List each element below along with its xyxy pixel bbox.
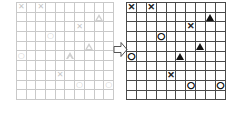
- grid-cell: [17, 81, 27, 91]
- grid-cell: [147, 52, 157, 62]
- source-grid: ✕✕✕○○✕○○: [16, 2, 114, 100]
- grid-cell: [95, 42, 105, 52]
- grid-cell: ○: [216, 81, 226, 91]
- grid-cell: [206, 91, 216, 100]
- circle-symbol: ○: [157, 32, 165, 41]
- circle-symbol: ○: [76, 81, 83, 89]
- grid-cell: [157, 71, 167, 81]
- grid-cell: [147, 22, 157, 32]
- circle-symbol: ○: [187, 81, 195, 90]
- grid-cell: [196, 32, 206, 42]
- cross-symbol: ✕: [128, 3, 136, 12]
- grid-cell: [56, 13, 66, 23]
- grid-cell: [127, 13, 137, 22]
- grid-cell: [27, 90, 37, 100]
- grid-cell: [196, 22, 206, 32]
- grid-cell: ✕: [167, 71, 177, 81]
- grid-cell: [56, 51, 66, 61]
- grid-cell: [137, 91, 147, 100]
- grid-cell: [176, 42, 186, 51]
- grid-cell: [27, 81, 37, 91]
- grid-cell: [17, 32, 27, 42]
- grid-cell: [137, 13, 147, 22]
- grid-cell: ✕: [186, 22, 196, 32]
- cross-symbol: ✕: [37, 3, 44, 11]
- grid-cell: [157, 3, 167, 13]
- grid-cell: [167, 22, 177, 32]
- grid-cell: [167, 52, 177, 62]
- grid-cell: [65, 3, 75, 13]
- grid-cell: [186, 32, 196, 42]
- grid-cell: ○: [17, 51, 27, 61]
- grid-cell: [27, 32, 37, 42]
- grid-cell: [56, 81, 66, 91]
- grid-cell: [216, 22, 226, 32]
- grid-cell: [127, 22, 137, 32]
- grid-cell: [36, 32, 46, 42]
- circle-symbol: ○: [105, 81, 112, 89]
- grid-cell: [196, 71, 206, 81]
- grid-cell: ✕: [127, 3, 137, 13]
- grid-cell: [104, 61, 114, 71]
- grid-transformation-figure: ✕✕✕○○✕○○ ✕✕✕○○✕○○: [0, 0, 238, 113]
- grid-cell: [17, 90, 27, 100]
- grid-cell: [147, 71, 157, 81]
- grid-cell: [216, 62, 226, 71]
- circle-symbol: ○: [18, 52, 25, 60]
- grid-cell: [176, 52, 186, 62]
- grid-cell: [85, 71, 95, 81]
- grid-cell: [85, 42, 95, 52]
- grid-cell: [206, 13, 216, 22]
- grid-cell: [17, 13, 27, 23]
- grid-cell: [27, 3, 37, 13]
- grid-cell: [137, 52, 147, 62]
- grid-cell: [127, 32, 137, 42]
- grid-cell: [206, 62, 216, 71]
- grid-cell: [17, 71, 27, 81]
- grid-cell: [186, 42, 196, 51]
- grid-cell: [167, 3, 177, 13]
- grid-cell: [36, 42, 46, 52]
- grid-cell: [56, 42, 66, 52]
- grid-cell: [65, 61, 75, 71]
- grid-cell: [65, 51, 75, 61]
- grid-cell: [147, 81, 157, 91]
- grid-cell: [36, 22, 46, 32]
- grid-cell: [147, 91, 157, 100]
- grid-cell: [157, 52, 167, 62]
- grid-cell: [95, 22, 105, 32]
- grid-cell: [95, 90, 105, 100]
- grid-cell: [65, 81, 75, 91]
- grid-cell: [206, 42, 216, 51]
- grid-cell: [167, 81, 177, 91]
- grid-cell: [75, 90, 85, 100]
- grid-cell: [167, 42, 177, 51]
- grid-cell: ○: [46, 32, 56, 42]
- grid-cell: [206, 81, 216, 91]
- grid-cell: [127, 91, 137, 100]
- grid-cell: [176, 62, 186, 71]
- grid-cell: [167, 13, 177, 22]
- grid-cell: [95, 32, 105, 42]
- grid-cell: ✕: [36, 3, 46, 13]
- grid-cell: [46, 51, 56, 61]
- grid-cell: [46, 61, 56, 71]
- grid-cell: [137, 42, 147, 51]
- grid-cell: [56, 90, 66, 100]
- grid-cell: ○: [75, 81, 85, 91]
- grid-cell: [56, 22, 66, 32]
- grid-cell: [216, 52, 226, 62]
- grid-cell: [157, 91, 167, 100]
- grid-cell: [216, 91, 226, 100]
- grid-cell: [75, 32, 85, 42]
- grid-cell: [196, 3, 206, 13]
- grid-cell: [186, 91, 196, 100]
- grid-cell: [137, 22, 147, 32]
- grid-cell: [137, 81, 147, 91]
- triangle-symbol: [95, 14, 103, 21]
- grid-cell: [176, 71, 186, 81]
- circle-symbol: ○: [128, 52, 136, 61]
- grid-cell: [127, 81, 137, 91]
- cross-symbol: ✕: [147, 3, 155, 12]
- grid-cell: [196, 62, 206, 71]
